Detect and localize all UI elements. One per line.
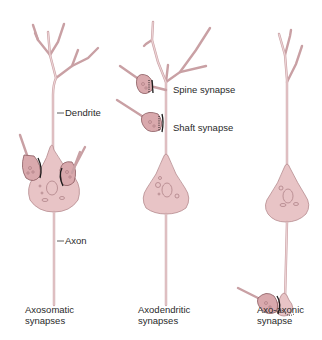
caption-line-2: synapses [138,316,190,327]
caption-axoaxonic: Axo-axonic synapse [257,305,304,326]
synapse-types-diagram: .n { fill: #e8c4c6; stroke: #b58a8e; str… [0,0,322,340]
caption-line-1: Axodendritic [138,305,190,316]
caption-line-1: Axosomatic [25,305,74,316]
caption-axosomatic: Axosomatic synapses [25,305,74,326]
axosomatic-terminal-left [20,135,41,181]
axoaxonic-neuron [238,30,309,316]
spine-synapse-label: Spine synapse [173,84,235,95]
caption-line-2: synapses [25,316,74,327]
soma [265,164,308,222]
soma [143,154,189,214]
shaft-synapse-label: Shaft synapse [173,122,233,133]
axodendritic-neuron [117,22,210,305]
axosomatic-terminal-right [60,147,85,186]
dendrite-label: Dendrite [65,107,101,118]
caption-line-1: Axo-axonic [257,305,304,316]
caption-axodendritic: Axodendritic synapses [138,305,190,326]
shaft-synapse-terminal [117,100,163,132]
dendrite-tree [279,30,302,170]
caption-line-2: synapse [257,316,304,327]
axosomatic-neuron [20,24,98,305]
axon-label: Axon [65,235,87,246]
spine-synapse-terminal [120,66,153,94]
dendrite-tree [33,24,98,150]
